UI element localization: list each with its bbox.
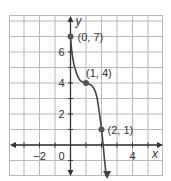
point-marker	[83, 80, 89, 86]
y-tick-label: 6	[58, 46, 64, 58]
x-axis-label: x	[151, 147, 159, 161]
point-label: (0, 7)	[78, 31, 104, 43]
y-tick-label: 4	[58, 77, 64, 89]
point-label: (1, 4)	[86, 67, 112, 79]
point-label: (2, 1)	[108, 124, 134, 136]
x-tick-label: −2	[33, 150, 46, 162]
x-tick-label: 0	[58, 150, 64, 162]
y-axis-label: y	[75, 14, 83, 28]
x-tick-label: 4	[129, 150, 135, 162]
function-curve	[71, 37, 107, 177]
point-marker	[99, 127, 105, 133]
y-tick-label: 2	[58, 108, 64, 120]
graph: (0, 7)(1, 4)(2, 1) −204246 x y	[0, 0, 171, 181]
point-marker	[68, 34, 74, 40]
